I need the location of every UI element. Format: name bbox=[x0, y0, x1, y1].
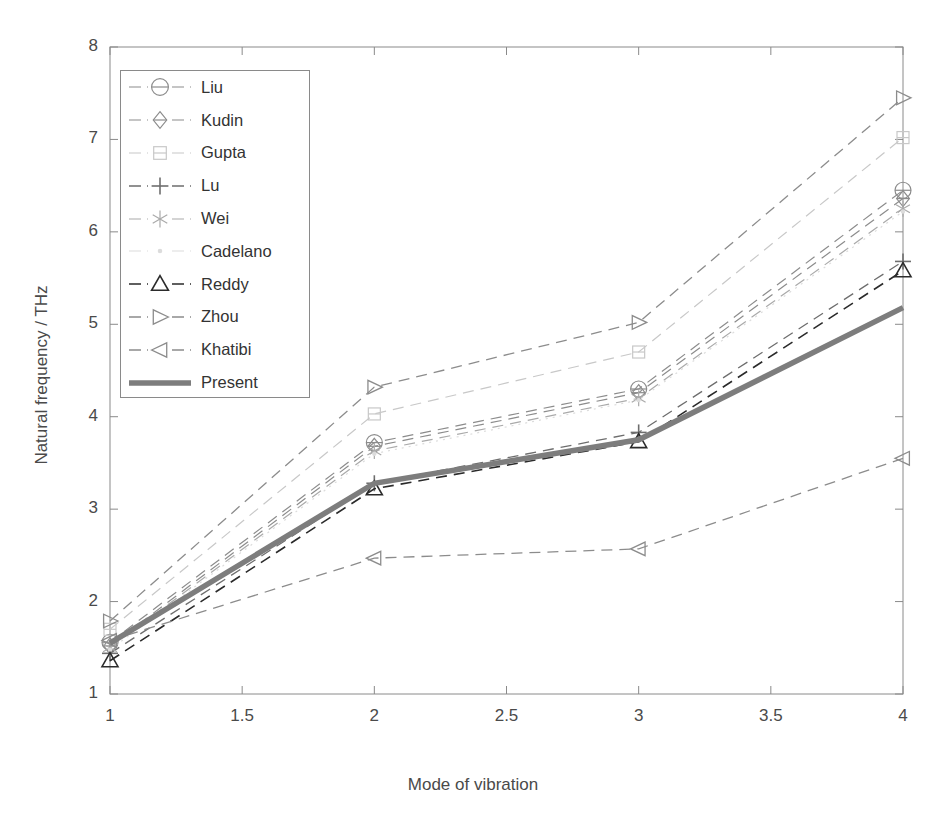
legend-item-liu[interactable]: Liu bbox=[121, 71, 309, 104]
marker-circle bbox=[152, 79, 169, 96]
legend-swatch-reddy bbox=[121, 268, 199, 300]
legend-label: Reddy bbox=[199, 275, 249, 294]
marker-dot bbox=[901, 210, 904, 213]
y-tick-label: 3 bbox=[68, 498, 98, 518]
legend-label: Liu bbox=[199, 78, 223, 97]
legend-label: Wei bbox=[199, 209, 229, 228]
marker-triangle-left bbox=[152, 343, 167, 357]
legend-swatch-present bbox=[121, 367, 199, 399]
x-tick-label: 1.5 bbox=[212, 706, 272, 726]
marker-triangle-right bbox=[897, 91, 911, 105]
legend-item-present[interactable]: Present bbox=[121, 366, 309, 399]
marker-dot bbox=[108, 648, 111, 651]
legend-swatch-kudin bbox=[121, 104, 199, 136]
legend-swatch-lu bbox=[121, 170, 199, 202]
x-tick-label: 3 bbox=[609, 706, 669, 726]
legend-swatch-zhou bbox=[121, 301, 199, 333]
legend-label: Present bbox=[199, 373, 258, 392]
y-tick-label: 2 bbox=[68, 591, 98, 611]
legend-swatch-gupta bbox=[121, 137, 199, 169]
legend-label: Zhou bbox=[199, 307, 239, 326]
legend-swatch-wei bbox=[121, 203, 199, 235]
marker-dot bbox=[373, 452, 376, 455]
y-tick-label: 6 bbox=[68, 221, 98, 241]
marker-triangle-up bbox=[152, 276, 169, 291]
y-tick-label: 5 bbox=[68, 313, 98, 333]
marker-triangle-right bbox=[153, 310, 168, 324]
legend-label: Cadelano bbox=[199, 242, 272, 261]
legend-label: Gupta bbox=[199, 143, 246, 162]
y-tick-label: 7 bbox=[68, 128, 98, 148]
x-tick-label: 2.5 bbox=[477, 706, 537, 726]
legend-item-wei[interactable]: Wei bbox=[121, 202, 309, 235]
legend-item-zhou[interactable]: Zhou bbox=[121, 301, 309, 334]
legend-label: Khatibi bbox=[199, 340, 251, 359]
marker-dot bbox=[158, 250, 161, 253]
y-tick-label: 8 bbox=[68, 36, 98, 56]
legend-item-reddy[interactable]: Reddy bbox=[121, 268, 309, 301]
legend-item-khatibi[interactable]: Khatibi bbox=[121, 333, 309, 366]
legend-label: Kudin bbox=[199, 111, 243, 130]
marker-diamond bbox=[153, 112, 166, 129]
legend-item-gupta[interactable]: Gupta bbox=[121, 137, 309, 170]
marker-dot bbox=[637, 398, 640, 401]
legend-item-cadelano[interactable]: Cadelano bbox=[121, 235, 309, 268]
marker-asterisk bbox=[153, 210, 168, 227]
x-tick-label: 2 bbox=[344, 706, 404, 726]
marker-plus bbox=[152, 177, 169, 194]
marker-triangle-right bbox=[368, 380, 382, 394]
y-tick-label: 4 bbox=[68, 406, 98, 426]
legend-item-kudin[interactable]: Kudin bbox=[121, 104, 309, 137]
legend-item-lu[interactable]: Lu bbox=[121, 169, 309, 202]
legend-label: Lu bbox=[199, 176, 219, 195]
y-tick-label: 1 bbox=[68, 683, 98, 703]
x-axis-title: Mode of vibration bbox=[0, 775, 946, 795]
legend-swatch-cadelano bbox=[121, 235, 199, 267]
figure-canvas: 12345678 11.522.533.54 Mode of vibration… bbox=[0, 0, 946, 817]
y-axis-title: Natural frequency / THz bbox=[32, 245, 52, 505]
x-tick-label: 3.5 bbox=[741, 706, 801, 726]
marker-square bbox=[154, 147, 167, 160]
x-tick-label: 4 bbox=[873, 706, 933, 726]
series-khatibi bbox=[102, 452, 909, 648]
marker-square bbox=[633, 346, 645, 358]
legend-swatch-liu bbox=[121, 71, 199, 103]
legend-swatch-khatibi bbox=[121, 334, 199, 366]
chart-legend: LiuKudinGuptaLuWeiCadelanoReddyZhouKhati… bbox=[120, 70, 310, 398]
marker-square bbox=[368, 408, 380, 420]
x-tick-label: 1 bbox=[80, 706, 140, 726]
